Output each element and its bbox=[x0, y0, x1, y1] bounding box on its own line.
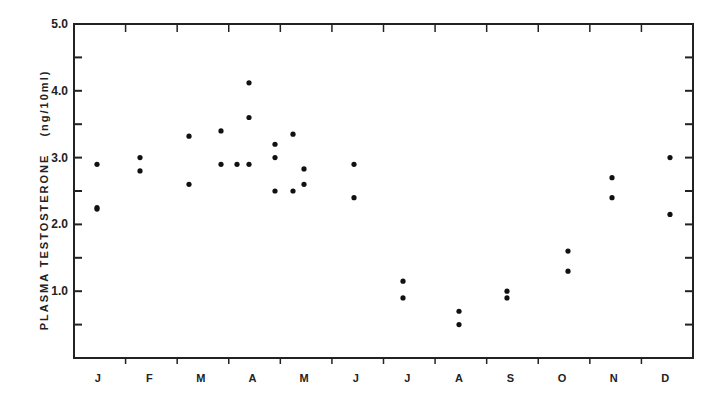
data-point bbox=[290, 188, 295, 193]
x-month-label: J bbox=[95, 372, 101, 384]
data-point bbox=[400, 295, 405, 300]
x-month-label: M bbox=[300, 372, 309, 384]
data-point bbox=[456, 322, 461, 327]
x-axis-ticks-top bbox=[126, 24, 642, 32]
data-point bbox=[667, 155, 672, 160]
data-point bbox=[351, 162, 356, 167]
data-point bbox=[272, 188, 277, 193]
x-month-label: A bbox=[455, 372, 463, 384]
x-month-label: J bbox=[404, 372, 410, 384]
y-tick-label: 4.0 bbox=[51, 84, 68, 98]
y-tick-label: 1.0 bbox=[51, 284, 68, 298]
data-point bbox=[667, 212, 672, 217]
data-point bbox=[504, 289, 509, 294]
data-point bbox=[609, 175, 614, 180]
x-month-label: N bbox=[610, 372, 618, 384]
y-tick-label: 2.0 bbox=[51, 217, 68, 231]
data-point bbox=[137, 155, 142, 160]
data-point bbox=[565, 249, 570, 254]
data-points bbox=[94, 80, 672, 327]
x-month-label: D bbox=[661, 372, 669, 384]
data-point bbox=[272, 142, 277, 147]
data-point bbox=[301, 182, 306, 187]
data-point bbox=[94, 206, 99, 211]
x-month-label: M bbox=[196, 372, 205, 384]
y-axis-ticks-left bbox=[74, 24, 82, 325]
data-point bbox=[186, 134, 191, 139]
y-axis-tick-labels: 1.02.03.04.05.0 bbox=[51, 17, 68, 298]
data-point bbox=[504, 295, 509, 300]
data-point bbox=[186, 182, 191, 187]
y-axis-label-main: PLASMA TESTOSTERONE bbox=[38, 154, 50, 331]
data-point bbox=[609, 195, 614, 200]
x-month-label: J bbox=[353, 372, 359, 384]
y-axis-label-units: (ng/10ml) bbox=[38, 70, 50, 137]
data-point bbox=[246, 80, 251, 85]
data-point bbox=[272, 155, 277, 160]
x-month-label: F bbox=[146, 372, 153, 384]
data-point bbox=[218, 162, 223, 167]
scatter-chart: 1.02.03.04.05.0 JFMAMJJASOND PLASMA TEST… bbox=[0, 0, 715, 393]
y-axis-label: PLASMA TESTOSTERONE (ng/10ml) bbox=[38, 70, 50, 331]
x-month-label: A bbox=[249, 372, 257, 384]
y-tick-label: 5.0 bbox=[51, 17, 68, 31]
data-point bbox=[246, 115, 251, 120]
data-point bbox=[456, 309, 461, 314]
data-point bbox=[137, 168, 142, 173]
data-point bbox=[301, 166, 306, 171]
x-month-label: S bbox=[507, 372, 514, 384]
data-point bbox=[351, 195, 356, 200]
y-axis-ticks-right bbox=[685, 24, 693, 325]
y-tick-label: 3.0 bbox=[51, 151, 68, 165]
data-point bbox=[94, 162, 99, 167]
data-point bbox=[234, 162, 239, 167]
data-point bbox=[565, 269, 570, 274]
data-point bbox=[246, 162, 251, 167]
x-axis-month-labels: JFMAMJJASOND bbox=[95, 372, 670, 384]
plot-frame bbox=[74, 24, 693, 358]
data-point bbox=[218, 128, 223, 133]
data-point bbox=[400, 279, 405, 284]
data-point bbox=[290, 132, 295, 137]
x-month-label: O bbox=[558, 372, 567, 384]
